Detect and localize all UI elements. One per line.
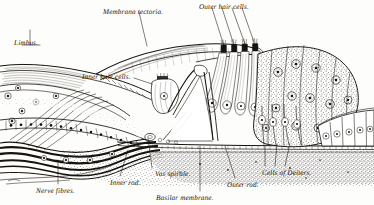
label-outer-rod: Outer rod.	[227, 182, 259, 189]
tympanic-connective-tissue	[150, 152, 374, 184]
label-vas-spirale: Vas spirale.	[155, 171, 190, 178]
label-inner-hair-cells: Inner hair cells.	[82, 74, 131, 81]
label-inner-rod: Inner rod.	[110, 180, 140, 187]
label-limbus: Limbus.	[14, 40, 38, 47]
label-outer-hair-cells: Outer hair cells.	[199, 4, 249, 11]
label-cells-of-deiters: Cells of Deiters.	[262, 170, 311, 177]
label-nerve-fibres: Nerve fibres.	[36, 188, 75, 195]
label-basilar-membrane: Basilar membrane.	[156, 195, 214, 202]
organ-of-corti-figure: Limbus.Membrana tectoria.Outer hair cell…	[0, 0, 374, 205]
label-membrana-tectoria: Membrana tectoria.	[103, 9, 163, 16]
